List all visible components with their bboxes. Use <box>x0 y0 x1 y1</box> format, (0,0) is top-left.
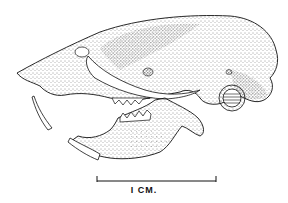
infraorbital-foramen <box>75 47 89 57</box>
upper-incisor <box>32 96 52 130</box>
orbit-foramen <box>143 68 153 76</box>
scale-bar <box>97 176 216 182</box>
scale-bar-label: I CM. <box>0 185 288 195</box>
skull-illustration <box>0 0 288 203</box>
temporal-foramen <box>226 70 232 75</box>
upper-molar-row <box>112 98 150 105</box>
auditory-bulla <box>219 85 245 111</box>
